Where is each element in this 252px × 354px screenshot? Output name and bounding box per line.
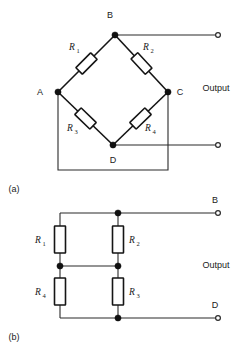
svg-text:R: R: [68, 42, 75, 52]
node-dot-mid-left: [57, 263, 63, 269]
output-label-a: Output: [202, 83, 230, 93]
circuit-figure: B A C D R 1 R 2 R 3 R 4 Output: [0, 0, 252, 354]
svg-text:R: R: [142, 42, 149, 52]
svg-text:R: R: [66, 123, 73, 133]
terminal-output-top-a: [216, 33, 221, 38]
resistor-label-r1-b: R 1: [34, 235, 46, 247]
node-dot-c: [165, 89, 171, 95]
terminal-label-b: B: [212, 195, 218, 205]
panel-caption-b: (b): [9, 332, 20, 342]
svg-text:1: 1: [76, 47, 79, 54]
node-label-c: C: [177, 87, 184, 97]
output-label-b: Output: [202, 260, 230, 270]
terminal-label-d: D: [212, 300, 219, 310]
node-dot-b: [112, 32, 118, 38]
panel-a: B A C D R 1 R 2 R 3 R 4 Output: [9, 10, 231, 194]
resistor-r4-body-b: [55, 278, 66, 305]
terminal-output-bottom-b: [216, 316, 221, 321]
resistor-label-r2-b: R 2: [128, 235, 140, 247]
svg-text:2: 2: [136, 240, 139, 247]
svg-text:R: R: [34, 235, 41, 245]
resistor-label-r3: R 3: [66, 123, 78, 135]
resistor-label-r3-b: R 3: [128, 287, 140, 299]
svg-text:R: R: [128, 287, 135, 297]
resistor-label-r1: R 1: [68, 42, 80, 54]
resistor-r1-body-b: [55, 226, 66, 253]
resistor-label-r4-b: R 4: [34, 287, 46, 299]
svg-text:2: 2: [150, 47, 153, 54]
node-label-a: A: [37, 87, 43, 97]
node-label-b: B: [107, 10, 113, 20]
node-dot-bottom-junction: [115, 315, 121, 321]
svg-text:4: 4: [42, 292, 46, 299]
svg-text:3: 3: [136, 292, 139, 299]
node-label-d: D: [110, 155, 117, 165]
node-dot-a: [55, 89, 61, 95]
resistor-r1-body: [76, 53, 97, 74]
svg-text:R: R: [34, 287, 41, 297]
terminal-output-top-b: [216, 211, 221, 216]
resistor-r2-body: [131, 53, 152, 75]
svg-text:1: 1: [42, 240, 45, 247]
svg-text:R: R: [144, 123, 151, 133]
panel-b: B D R 1 R 2 R 4 R 3 Output (b): [9, 195, 231, 342]
resistor-r2-body-b: [113, 226, 124, 253]
node-dot-mid-right: [115, 263, 121, 269]
resistor-r3-body-b: [113, 278, 124, 305]
panel-caption-a: (a): [9, 184, 20, 194]
resistor-label-r2: R 2: [142, 42, 154, 54]
figure-root: B A C D R 1 R 2 R 3 R 4 Output: [0, 0, 252, 354]
node-dot-top-junction: [115, 210, 121, 216]
node-dot-d: [110, 142, 116, 148]
svg-text:4: 4: [152, 128, 156, 135]
svg-text:3: 3: [74, 128, 77, 135]
terminal-output-bottom-a: [216, 143, 221, 148]
resistor-r3-body: [75, 108, 96, 129]
resistor-label-r4: R 4: [144, 123, 156, 135]
svg-text:R: R: [128, 235, 135, 245]
